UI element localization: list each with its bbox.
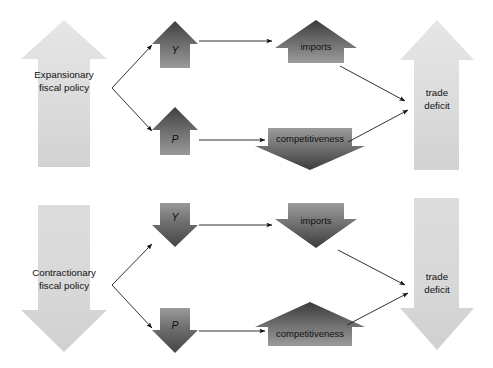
outcome-label-line2: deficit xyxy=(424,284,450,295)
node-competitiveness-label: competitiveness xyxy=(276,328,344,339)
node-p-contractionary: P xyxy=(152,308,198,353)
policy-arrow-shape xyxy=(21,205,107,352)
connector-policy-to-p xyxy=(112,88,152,131)
node-imports-label: imports xyxy=(300,41,331,52)
node-y-expansionary: Y xyxy=(152,21,198,68)
policy-label-line1: Expansionary xyxy=(34,69,93,80)
outcome-arrow-contractionary: trade deficit xyxy=(400,198,474,350)
policy-label-line1: Contractionary xyxy=(32,267,96,278)
policy-label-line2: fiscal policy xyxy=(39,82,89,93)
policy-arrow-contractionary: Contractionary fiscal policy xyxy=(21,205,107,352)
policy-arrow-expansionary: Expansionary fiscal policy xyxy=(21,20,107,167)
node-p-label: P xyxy=(171,133,178,145)
connector-competitiveness-to-deficit xyxy=(348,110,408,142)
diagram-canvas: Expansionary fiscal policy Y P xyxy=(0,0,493,368)
connector-policy-to-y xyxy=(112,244,152,285)
policy-arrow-shape xyxy=(21,20,107,167)
node-imports-label: imports xyxy=(300,215,331,226)
node-p-shape xyxy=(152,107,198,155)
node-y-contractionary: Y xyxy=(152,203,198,247)
node-imports-expansionary: imports xyxy=(275,20,357,63)
panel-contractionary: Contractionary fiscal policy Y P xyxy=(21,198,474,353)
outcome-label-line1: trade xyxy=(426,271,449,282)
outcome-label-line1: trade xyxy=(426,87,449,98)
diagram-root: Expansionary fiscal policy Y P xyxy=(0,0,493,368)
outcome-arrow-expansionary: trade deficit xyxy=(400,20,474,170)
panel-expansionary: Expansionary fiscal policy Y P xyxy=(21,20,474,170)
connector-policy-to-p xyxy=(112,285,152,328)
node-p-expansionary: P xyxy=(152,107,198,155)
node-y-label: Y xyxy=(171,44,179,56)
node-competitiveness-expansionary: competitiveness xyxy=(255,128,365,170)
connector-policy-to-y xyxy=(112,45,152,88)
connector-imports-to-deficit xyxy=(340,66,405,101)
node-imports-contractionary: imports xyxy=(275,203,357,248)
connector-imports-to-deficit xyxy=(338,250,405,285)
connector-competitiveness-to-deficit xyxy=(347,293,408,325)
policy-label-line2: fiscal policy xyxy=(39,280,89,291)
node-competitiveness-label: competitiveness xyxy=(276,133,344,144)
node-p-label: P xyxy=(171,319,178,331)
node-y-label: Y xyxy=(171,211,179,223)
outcome-label-line2: deficit xyxy=(424,100,450,111)
node-y-shape xyxy=(152,203,198,247)
